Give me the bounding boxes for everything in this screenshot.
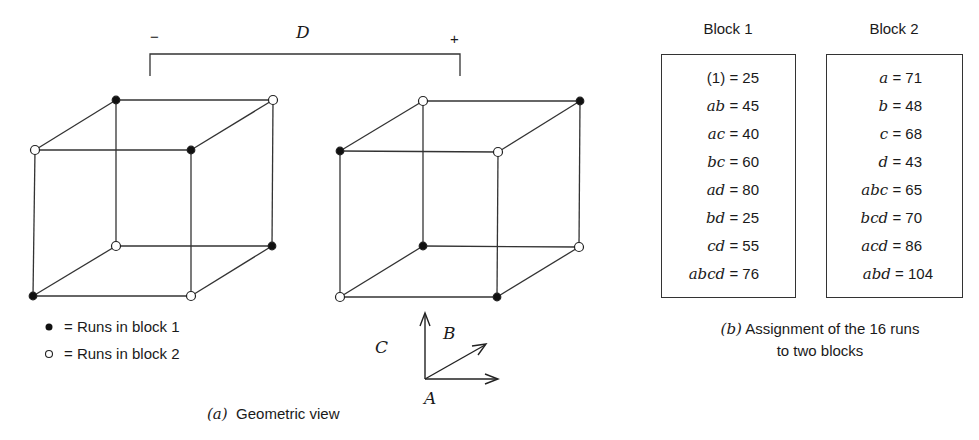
run-row: b = 48 [879, 95, 922, 117]
run-row: ad = 80 [707, 179, 759, 201]
block1-title: Block 1 [658, 20, 798, 37]
vertex-open-icon [336, 293, 345, 302]
axes-indicator [420, 313, 498, 384]
run-row: d = 43 [879, 151, 922, 173]
factor-d-label: D [295, 22, 310, 42]
legend: = Runs in block 1 = Runs in block 2 [46, 318, 180, 362]
run-row: abc = 65 [861, 179, 922, 201]
cube-d-minus [33, 100, 273, 296]
block2-box: a = 71 b = 48 c = 68 d = 43 abc = 65 bcd… [826, 54, 963, 298]
caption-b-line1: (b) Assignment of the 16 runs [660, 318, 979, 340]
vertex-filled-icon [187, 146, 195, 154]
vertex-open-icon [575, 243, 584, 252]
vertex-open-icon [269, 96, 278, 105]
caption-b-line2: to two blocks [660, 340, 979, 362]
run-row: c = 68 [880, 123, 922, 145]
run-row: acd = 86 [861, 235, 922, 257]
cube-d-plus [340, 101, 580, 297]
caption-b: (b) Assignment of the 16 runs to two blo… [660, 318, 979, 362]
minus-label: − [150, 28, 159, 45]
legend-block1-text: = Runs in block 1 [64, 318, 179, 335]
axis-a-label: A [422, 388, 436, 408]
cube-d-minus-vertices [29, 96, 277, 301]
run-row: bd = 25 [706, 207, 759, 229]
plus-label: + [450, 30, 459, 47]
run-row: ab = 45 [707, 95, 759, 117]
vertex-open-icon [112, 242, 121, 251]
vertex-filled-icon [112, 96, 120, 104]
legend-block2-text: = Runs in block 2 [64, 345, 179, 362]
caption-a: (a) Geometric view [207, 405, 340, 423]
run-row: abcd = 76 [689, 263, 759, 285]
run-row: a = 71 [879, 67, 922, 89]
run-row: bcd = 70 [861, 207, 922, 229]
axis-b-label: B [442, 323, 456, 343]
run-row: bc = 60 [707, 151, 759, 173]
vertex-open-icon [187, 292, 196, 301]
vertex-filled-icon [336, 147, 344, 155]
vertex-open-icon [31, 146, 40, 155]
run-row: (1) = 25 [707, 67, 759, 89]
factor-d-bracket [150, 54, 460, 76]
run-row: ac = 40 [708, 123, 759, 145]
vertex-filled-icon [268, 242, 276, 250]
block2-title: Block 2 [824, 20, 964, 37]
vertex-open-icon [419, 97, 428, 106]
run-row: abd = 104 [863, 263, 933, 285]
geometric-view-diagram: D − + [0, 0, 640, 440]
cube-d-plus-vertices [336, 97, 584, 302]
block1-box: (1) = 25 ab = 45 ac = 40 bc = 60 ad = 80… [661, 54, 796, 298]
vertex-open-icon [494, 148, 503, 157]
run-row: cd = 55 [707, 235, 759, 257]
vertex-filled-icon [419, 242, 427, 250]
filled-dot-icon [46, 324, 53, 331]
vertex-filled-icon [493, 293, 501, 301]
vertex-filled-icon [29, 292, 37, 300]
open-dot-icon [46, 351, 53, 358]
axis-c-label: C [375, 337, 388, 357]
vertex-filled-icon [576, 97, 584, 105]
